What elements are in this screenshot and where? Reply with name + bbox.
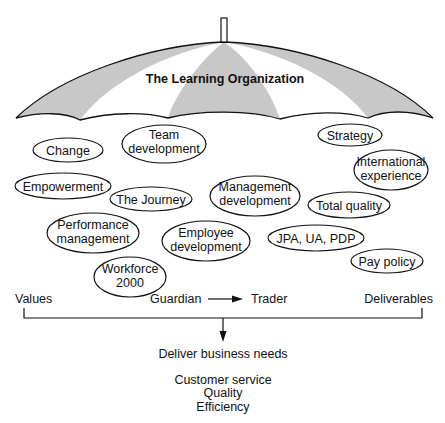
bracket-connector <box>24 308 422 342</box>
bubble-label: The Journey <box>116 193 186 207</box>
bubble-label: Pay policy <box>359 255 417 269</box>
bubble-label: Team <box>149 128 180 142</box>
bubble-workforce-2000: Workforce 2000 <box>94 257 166 297</box>
bubble-label: Change <box>46 144 90 158</box>
label-guardian: Guardian <box>150 292 201 306</box>
bubble-employee-development: Employee development <box>162 221 250 261</box>
bubble-management-development: Management development <box>210 176 300 216</box>
bubble-label: development <box>128 142 200 156</box>
umbrella-tip <box>221 18 227 42</box>
outcome-quality: Quality <box>204 386 244 400</box>
bubble-performance-management: Performance management <box>47 213 139 253</box>
bubble-label: Strategy <box>327 129 374 143</box>
bubble-label: Empowerment <box>23 180 104 194</box>
label-trader: Trader <box>251 292 287 306</box>
bubble-label: development <box>170 240 242 254</box>
bubble-label: Total quality <box>316 199 383 213</box>
bubble-change: Change <box>33 138 103 162</box>
bubble-international-experience: International experience <box>354 150 428 190</box>
bubble-label: International <box>357 155 426 169</box>
umbrella-title: The Learning Organization <box>146 72 304 86</box>
bubble-label: Management <box>219 180 292 194</box>
umbrella-canopy <box>16 18 433 120</box>
bubble-label: Employee <box>178 226 234 240</box>
bubble-the-journey: The Journey <box>110 187 192 211</box>
outcome-efficiency: Efficiency <box>196 400 250 414</box>
arrow-right-icon <box>208 296 243 303</box>
bubble-label: 2000 <box>116 276 144 290</box>
label-deliverables: Deliverables <box>364 292 433 306</box>
bubble-label: management <box>57 232 130 246</box>
label-deliver-business-needs: Deliver business needs <box>158 347 287 361</box>
bubble-jpa-ua-pdp: JPA, UA, PDP <box>268 225 364 251</box>
bubble-label: JPA, UA, PDP <box>277 232 356 246</box>
bubble-label: development <box>219 194 291 208</box>
bubble-team-development: Team development <box>122 125 206 163</box>
bubble-empowerment: Empowerment <box>15 173 111 199</box>
arrow-down-icon <box>220 331 227 342</box>
bubble-label: Performance <box>57 218 129 232</box>
label-values: Values <box>15 292 52 306</box>
bubble-label: Workforce <box>102 262 159 276</box>
bubble-label: experience <box>360 169 421 183</box>
bubble-strategy: Strategy <box>318 124 382 146</box>
outcome-customer-service: Customer service <box>174 373 271 387</box>
bubble-pay-policy: Pay policy <box>351 249 423 273</box>
learning-organization-diagram: The Learning Organization Change Team de… <box>0 0 445 423</box>
bubble-total-quality: Total quality <box>308 192 390 218</box>
